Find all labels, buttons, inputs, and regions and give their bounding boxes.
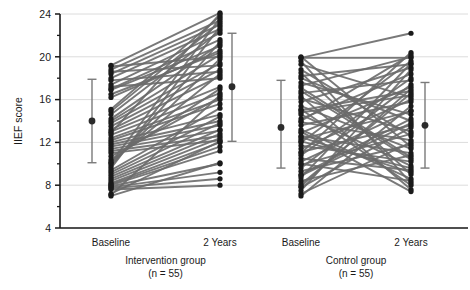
data-point — [298, 134, 303, 139]
group-label-intervention: Intervention group — [125, 255, 206, 266]
mean-marker — [229, 83, 236, 90]
y-axis-tick-label: 12 — [39, 136, 51, 148]
data-point — [298, 129, 303, 134]
data-point — [108, 69, 113, 74]
data-point — [217, 106, 222, 111]
y-axis-tick-label: 16 — [39, 93, 51, 105]
chart-figure: 4812162024 IIEF scoreBaseline2 YearsBase… — [0, 0, 470, 290]
data-point — [217, 71, 222, 76]
data-point — [217, 39, 222, 44]
data-point — [408, 50, 413, 55]
y-axis-tick-label: 8 — [45, 179, 51, 191]
data-point — [108, 130, 113, 135]
data-point — [408, 31, 413, 36]
data-point — [408, 170, 413, 175]
data-point — [298, 76, 303, 81]
x-tick-label-control-2years: 2 Years — [394, 237, 427, 248]
data-point — [217, 176, 222, 181]
mean-marker — [422, 122, 429, 129]
data-point — [408, 118, 413, 123]
data-point — [298, 173, 303, 178]
y-axis-title: IIEF score — [12, 97, 24, 145]
data-point — [108, 95, 113, 100]
y-axis-tick-label: 20 — [39, 51, 51, 63]
group-label-control: Control group — [326, 255, 387, 266]
mean-marker — [278, 124, 285, 131]
data-point — [217, 121, 222, 126]
data-point — [298, 83, 303, 88]
y-axis-tick-label: 24 — [39, 8, 51, 20]
data-point — [298, 161, 303, 166]
data-point — [408, 144, 413, 149]
data-point — [217, 160, 222, 165]
data-point — [408, 178, 413, 183]
data-point — [217, 48, 222, 53]
data-point — [217, 139, 222, 144]
x-tick-label-intervention-baseline: Baseline — [92, 237, 131, 248]
data-point — [108, 64, 113, 69]
data-point — [408, 103, 413, 108]
data-point — [408, 131, 413, 136]
data-point — [298, 88, 303, 93]
group-n-control: (n = 55) — [339, 268, 374, 279]
data-point — [108, 78, 113, 83]
data-point — [408, 76, 413, 81]
data-point — [217, 148, 222, 153]
data-point — [298, 70, 303, 75]
data-point — [108, 160, 113, 165]
data-point — [298, 118, 303, 123]
y-axis-tick-label: 4 — [45, 222, 51, 234]
data-point — [217, 56, 222, 61]
data-point — [408, 67, 413, 72]
data-point — [408, 61, 413, 66]
data-point — [298, 193, 303, 198]
data-point — [408, 189, 413, 194]
data-point — [298, 54, 303, 59]
group-n-intervention: (n = 55) — [148, 268, 183, 279]
data-point — [408, 86, 413, 91]
data-point — [298, 151, 303, 156]
data-point — [217, 11, 222, 16]
x-tick-label-control-baseline: Baseline — [282, 237, 321, 248]
data-point — [298, 94, 303, 99]
data-point — [217, 24, 222, 29]
data-point — [298, 110, 303, 115]
data-point — [217, 93, 222, 98]
mean-marker — [89, 118, 96, 125]
data-point — [108, 84, 113, 89]
data-point — [408, 93, 413, 98]
x-tick-label-intervention-2years: 2 Years — [203, 237, 236, 248]
paired-line-chart: 4812162024 IIEF scoreBaseline2 YearsBase… — [0, 0, 470, 290]
data-point — [298, 184, 303, 189]
data-point — [217, 114, 222, 119]
data-point — [217, 183, 222, 188]
data-point — [108, 193, 113, 198]
data-point — [217, 170, 222, 175]
data-point — [217, 86, 222, 91]
data-point — [408, 157, 413, 162]
